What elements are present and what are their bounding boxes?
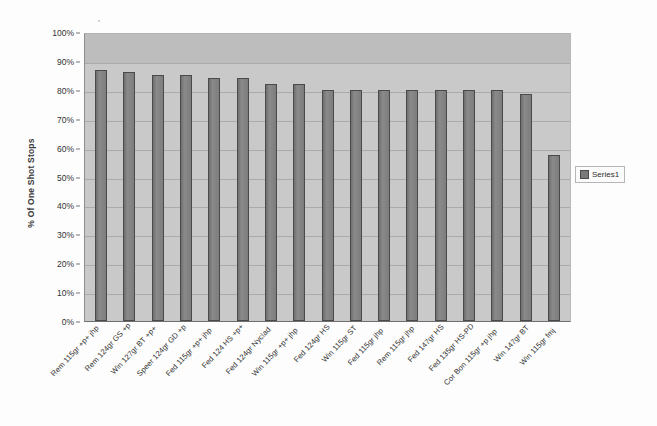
bar[interactable] xyxy=(237,78,249,321)
bar-slot xyxy=(455,34,483,321)
bar-slot xyxy=(257,34,285,321)
bar[interactable] xyxy=(322,90,334,321)
bar[interactable] xyxy=(265,84,277,321)
plot-area xyxy=(84,33,571,322)
y-axis-tick-mark xyxy=(76,90,80,91)
bar-chart: % Of One Shot Stops 100%90%80%70%60%50%4… xyxy=(0,0,657,426)
bar-slot xyxy=(483,34,511,321)
bar-slot xyxy=(398,34,426,321)
y-axis-tick-label: 100% xyxy=(52,28,74,38)
y-axis-tick-mark xyxy=(76,206,80,207)
chart-legend[interactable]: Series1 xyxy=(575,166,625,183)
bar[interactable] xyxy=(463,90,475,321)
y-axis-tick-labels: 100%90%80%70%60%50%40%30%20%10%0% xyxy=(40,33,80,322)
bar-slot xyxy=(342,34,370,321)
y-axis-tick-mark xyxy=(76,148,80,149)
y-axis-title: % Of One Shot Stops xyxy=(22,118,40,248)
bar-slot xyxy=(144,34,172,321)
y-axis-tick-label: 20% xyxy=(57,259,74,269)
bar[interactable] xyxy=(406,90,418,321)
bar[interactable] xyxy=(180,75,192,321)
bar-slot xyxy=(540,34,568,321)
bar[interactable] xyxy=(293,84,305,321)
bar-slot xyxy=(370,34,398,321)
y-axis-tick-label: 70% xyxy=(57,115,74,125)
y-axis-tick-label: 30% xyxy=(57,230,74,240)
y-axis-title-text: % Of One Shot Stops xyxy=(26,138,36,227)
x-axis-tick-label-text: Cor Bon 115gr +p jhp xyxy=(442,327,499,387)
y-axis-tick-label: 80% xyxy=(57,86,74,96)
bar-slot xyxy=(200,34,228,321)
bar[interactable] xyxy=(350,90,362,321)
scan-artifact-speck xyxy=(98,20,100,22)
y-axis-tick-label: 40% xyxy=(57,201,74,211)
x-axis-tick-label-text: Rem 115gr +p+ jhp xyxy=(49,324,101,379)
bar-slot xyxy=(228,34,256,321)
bar[interactable] xyxy=(208,78,220,321)
bar-slot xyxy=(313,34,341,321)
bar[interactable] xyxy=(95,70,107,321)
y-axis-tick-label: 90% xyxy=(57,57,74,67)
x-axis-tick-label-text: Speer 124gr GD +p xyxy=(135,323,188,379)
y-axis-tick-mark xyxy=(76,235,80,236)
y-axis-tick-mark xyxy=(76,264,80,265)
series1-swatch xyxy=(580,170,589,179)
bar-slot xyxy=(87,34,115,321)
bar-slot xyxy=(285,34,313,321)
bar[interactable] xyxy=(152,75,164,321)
bar-slot xyxy=(172,34,200,321)
bar[interactable] xyxy=(520,94,532,321)
bar[interactable] xyxy=(435,90,447,321)
y-axis-tick-mark xyxy=(76,119,80,120)
y-axis-tick-label: 0% xyxy=(62,317,74,327)
bar-series-series1 xyxy=(85,34,570,321)
bar-slot xyxy=(511,34,539,321)
x-axis-tick-labels: Rem 115gr +p+ jhpRem 124gr GS +pWin 127g… xyxy=(84,324,571,424)
bar-slot xyxy=(427,34,455,321)
bar[interactable] xyxy=(378,90,390,321)
y-axis-tick-mark xyxy=(76,322,80,323)
y-axis-tick-mark xyxy=(76,61,80,62)
y-axis-tick-label: 10% xyxy=(57,288,74,298)
bar[interactable] xyxy=(548,155,560,321)
bar[interactable] xyxy=(491,90,503,321)
legend-entry-label: Series1 xyxy=(592,170,619,179)
y-axis-tick-label: 60% xyxy=(57,144,74,154)
bar-slot xyxy=(115,34,143,321)
y-axis-tick-mark xyxy=(76,293,80,294)
bar[interactable] xyxy=(123,72,135,321)
y-axis-tick-mark xyxy=(76,33,80,34)
y-axis-tick-mark xyxy=(76,177,80,178)
y-axis-tick-label: 50% xyxy=(57,173,74,183)
